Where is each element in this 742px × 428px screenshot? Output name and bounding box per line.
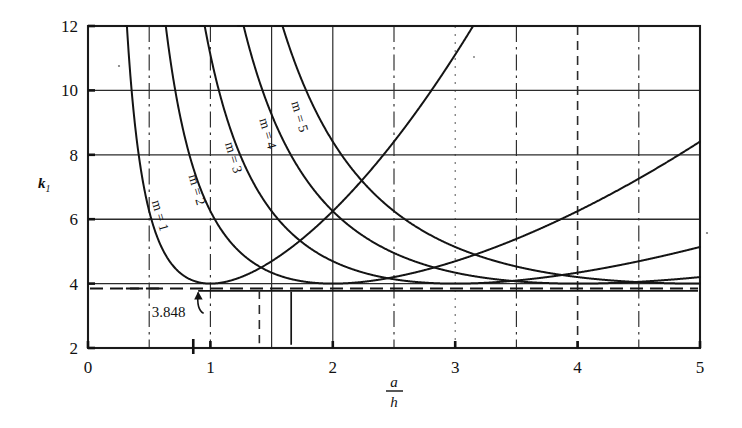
x-tick-label: 2 bbox=[329, 358, 338, 377]
x-axis-label-numerator: a bbox=[390, 374, 398, 390]
x-tick-label: 1 bbox=[206, 358, 215, 377]
figure-background bbox=[0, 0, 742, 428]
buckling-coefficient-chart: 24681012012345 m = 1m = 2m = 3m = 4m = 5… bbox=[0, 0, 742, 428]
y-tick-label: 10 bbox=[61, 81, 78, 100]
x-axis-label-denominator: h bbox=[390, 394, 398, 410]
y-tick-label: 6 bbox=[70, 210, 79, 229]
x-tick-label: 5 bbox=[696, 358, 705, 377]
y-tick-label: 4 bbox=[70, 275, 79, 294]
x-tick-label: 0 bbox=[84, 358, 93, 377]
y-tick-label: 2 bbox=[70, 339, 79, 358]
x-tick-label: 4 bbox=[573, 358, 582, 377]
x-tick-label: 3 bbox=[451, 358, 460, 377]
y-tick-label: 8 bbox=[70, 146, 79, 165]
y-tick-label: 12 bbox=[61, 17, 78, 36]
annotation-3848: 3.848 bbox=[152, 304, 186, 320]
